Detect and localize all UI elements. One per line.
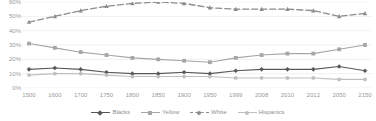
data-point-yellow [337, 47, 341, 51]
data-point-yellow [286, 52, 290, 56]
data-point-yellow [105, 53, 109, 57]
legend-item-white[interactable]: White [190, 109, 226, 116]
legend-item-yellow[interactable]: Yellow [141, 109, 179, 116]
data-point-yellow [363, 43, 367, 47]
data-point-hispanics [27, 73, 31, 77]
data-point-hispanics [260, 76, 264, 80]
data-point-yellow [130, 56, 134, 60]
y-axis-tick-label: 10% [9, 71, 21, 77]
data-point-blacks [233, 69, 238, 74]
x-axis-tick-label: 2010 [281, 92, 294, 99]
x-axis-tick-label: 1950 [203, 92, 216, 99]
data-point-blacks [363, 69, 368, 74]
legend-label: Blacks [112, 109, 130, 116]
data-point-hispanics [182, 75, 186, 79]
data-point-hispanics [234, 76, 238, 80]
plot-svg [22, 2, 372, 88]
data-point-blacks [78, 67, 83, 72]
legend-marker-icon [141, 109, 160, 116]
x-axis-tick-label: 2150 [358, 92, 371, 99]
data-point-blacks [27, 67, 32, 72]
data-point-hispanics [105, 73, 109, 77]
population-share-line-chart: 0%10%20%30%40%50%60% 1500160017001750180… [0, 0, 376, 121]
data-point-yellow [53, 46, 57, 50]
x-axis-tick-label: 1900 [177, 92, 190, 99]
y-axis-tick-label: 20% [9, 56, 21, 62]
data-point-hispanics [363, 78, 367, 82]
x-axis-tick-label: 1600 [48, 92, 61, 99]
data-point-yellow [27, 42, 31, 46]
data-point-hispanics [79, 72, 83, 76]
data-point-yellow [260, 53, 264, 57]
data-point-yellow [182, 59, 186, 63]
data-point-blacks [285, 67, 290, 72]
x-axis-tick-label: 2012 [307, 92, 320, 99]
data-point-hispanics [130, 75, 134, 79]
data-point-blacks [259, 67, 264, 72]
x-axis-tick-label: 1850 [152, 92, 165, 99]
data-point-blacks [337, 64, 342, 69]
y-axis-tick-label: 30% [9, 42, 21, 48]
legend-item-blacks[interactable]: Blacks [91, 109, 130, 116]
data-point-blacks [53, 66, 58, 71]
x-axis-tick-label: 2050 [332, 92, 345, 99]
data-point-yellow [79, 50, 83, 54]
y-axis-tick-label: 0% [12, 85, 21, 91]
legend-marker-icon [238, 109, 257, 116]
data-point-hispanics [208, 75, 212, 79]
x-axis-tick-label: 1700 [74, 92, 87, 99]
x-axis-tick-label: 1999 [229, 92, 242, 99]
x-axis-labels: 1500160017001750180018501900195019992008… [22, 92, 372, 102]
x-axis-tick-label: 2008 [255, 92, 268, 99]
legend-label: Yellow [162, 109, 179, 116]
data-point-blacks [311, 67, 316, 72]
legend-label: Hispanics [259, 109, 285, 116]
y-axis-tick-label: 60% [9, 0, 21, 5]
x-axis-tick-label: 1800 [126, 92, 139, 99]
legend-item-hispanics[interactable]: Hispanics [238, 109, 285, 116]
x-axis-tick-label: 1750 [100, 92, 113, 99]
legend-marker-icon [91, 109, 110, 116]
y-axis-labels: 0%10%20%30%40%50%60% [0, 0, 22, 90]
data-point-yellow [208, 60, 212, 64]
data-point-hispanics [286, 76, 290, 80]
data-point-yellow [156, 57, 160, 61]
data-point-hispanics [311, 76, 315, 80]
legend-label: White [211, 109, 226, 116]
data-point-hispanics [337, 78, 341, 82]
y-axis-tick-label: 50% [9, 13, 21, 19]
y-axis-tick-label: 40% [9, 28, 21, 34]
x-axis-tick-label: 1500 [22, 92, 35, 99]
data-point-hispanics [53, 72, 57, 76]
legend-marker-icon [190, 109, 209, 116]
chart-legend: BlacksYellowWhiteHispanics [0, 106, 376, 119]
data-point-yellow [234, 56, 238, 60]
data-point-yellow [311, 52, 315, 56]
plot-area [22, 2, 372, 88]
data-point-hispanics [156, 75, 160, 79]
